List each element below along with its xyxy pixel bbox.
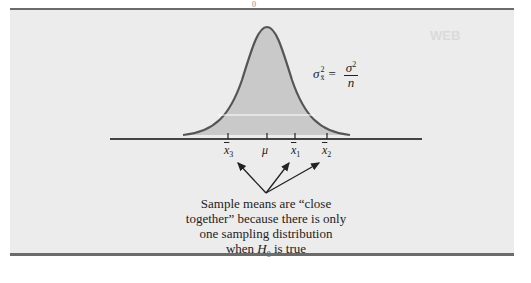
label-mu: μ xyxy=(262,143,268,158)
arrow-to-x3 xyxy=(238,163,266,193)
label-x1: x1 xyxy=(291,143,300,159)
caption: Sample means are “close together” becaus… xyxy=(166,196,366,262)
arrow-to-x1 xyxy=(266,163,289,193)
arrow-to-x2 xyxy=(266,163,319,193)
variance-formula: σ 2x̄ = σ2 n xyxy=(313,58,358,90)
label-x2: x2 xyxy=(322,143,331,159)
bottom-rule xyxy=(10,253,514,256)
label-x3: x3 xyxy=(224,143,233,159)
